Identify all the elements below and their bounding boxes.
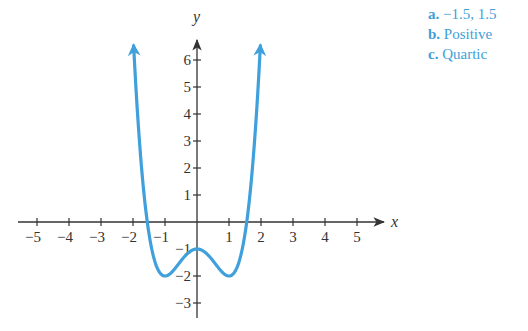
y-tick-label: 4 [184,106,192,122]
answer-list: a. −1.5, 1.5 b. Positive c. Quartic [428,4,496,64]
y-tick-label: 3 [184,133,192,149]
answer-b: b. Positive [428,24,496,44]
x-tick-label: −4 [57,229,73,245]
x-tick-label: 5 [353,229,361,245]
y-tick-label: 1 [184,187,192,203]
answer-c: c. Quartic [428,44,496,64]
y-tick-label: 6 [184,52,192,68]
y-tick-label: 2 [184,160,192,176]
y-tick-label: 5 [184,79,192,95]
axis-ticks: −5−4−3−2−112345−3−2−1123456 [25,52,361,311]
x-tick-label: −5 [25,229,41,245]
y-tick-label: −2 [175,268,191,284]
x-tick-label: 4 [321,229,329,245]
x-tick-label: 2 [257,229,265,245]
x-tick-label: 1 [225,229,233,245]
x-tick-label: −1 [153,229,169,245]
x-tick-label: −3 [89,229,105,245]
y-tick-label: −3 [175,295,191,311]
x-axis-label: x [390,213,398,230]
axes: xy [18,8,398,318]
y-axis-label: y [191,8,201,26]
x-tick-label: 3 [289,229,297,245]
x-tick-label: −2 [121,229,137,245]
answer-a: a. −1.5, 1.5 [428,4,496,24]
